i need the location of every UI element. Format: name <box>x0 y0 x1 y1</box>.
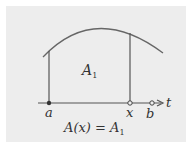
region-label: A1 <box>80 62 97 80</box>
point-label-x: x <box>126 105 134 120</box>
equation-subscript: 1 <box>119 128 124 137</box>
region-letter: A <box>80 62 92 78</box>
equation-lhs: A(x) = A <box>63 120 119 135</box>
area-function-diagram: t a x b A1 A(x) = A1 <box>0 0 190 148</box>
point-label-b: b <box>146 106 154 121</box>
point-b <box>150 101 154 105</box>
region-subscript: 1 <box>92 71 97 80</box>
equation: A(x) = A1 <box>63 120 125 137</box>
function-curve <box>43 28 163 57</box>
axis-label-t: t <box>166 95 172 110</box>
point-label-a: a <box>45 105 53 120</box>
